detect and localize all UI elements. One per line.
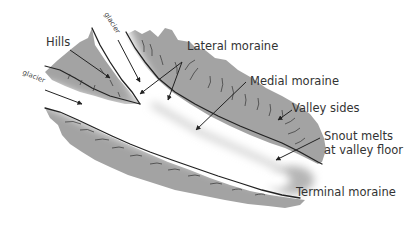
glacier-valley-diagram: Hills glacier glacier Lateral moraine Me…: [0, 0, 411, 235]
label-medial-moraine: Medial moraine: [250, 74, 339, 88]
label-lateral-moraine: Lateral moraine: [187, 39, 278, 53]
label-glacier-left: glacier: [21, 68, 46, 84]
label-hills: Hills: [46, 35, 70, 49]
label-valley-sides: Valley sides: [292, 101, 360, 115]
label-terminal-moraine: Terminal moraine: [295, 185, 396, 199]
label-snout-line2: at valley floor: [324, 143, 403, 157]
label-snout-line1: Snout melts: [324, 129, 393, 143]
